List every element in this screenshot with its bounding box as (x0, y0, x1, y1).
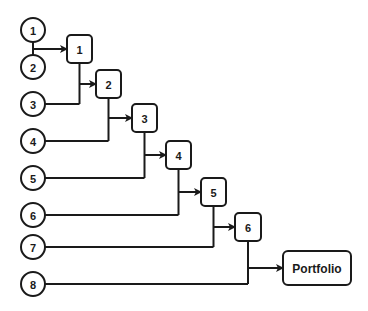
input-label-6: 6 (30, 211, 36, 222)
stage-label-3: 3 (141, 114, 147, 125)
stage-label-4: 4 (175, 151, 181, 162)
input-label-2: 2 (30, 63, 36, 74)
connector-lines (33, 42, 283, 284)
portfolio-label: Portfolio (292, 263, 341, 275)
stage-label-5: 5 (210, 188, 216, 199)
input-label-7: 7 (30, 243, 36, 254)
input-label-1: 1 (30, 26, 36, 37)
input-label-8: 8 (30, 280, 36, 291)
input-label-4: 4 (30, 137, 36, 148)
input-label-5: 5 (30, 174, 36, 185)
input-label-3: 3 (30, 100, 36, 111)
stage-label-6: 6 (245, 223, 251, 234)
stage-label-2: 2 (105, 80, 111, 91)
node-shapes (21, 18, 351, 296)
stage-label-1: 1 (76, 45, 82, 56)
